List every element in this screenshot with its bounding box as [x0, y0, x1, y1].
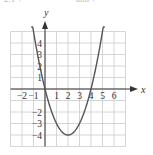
svg-text:−2: −2: [17, 91, 27, 101]
svg-text:2: 2: [66, 91, 71, 101]
svg-text:5: 5: [100, 91, 105, 101]
svg-text:1: 1: [54, 91, 59, 101]
x-axis-label: x: [140, 84, 146, 95]
axes: [11, 21, 139, 147]
svg-text:−2: −2: [32, 108, 42, 118]
y-axis-label: y: [43, 7, 49, 18]
svg-text:6: 6: [112, 91, 117, 101]
svg-text:−3: −3: [32, 119, 42, 129]
parabola-chart: −2−11234564321−2−3−4 x y: [0, 0, 153, 155]
svg-text:−1: −1: [28, 91, 38, 101]
svg-text:4: 4: [37, 39, 42, 49]
svg-text:−4: −4: [32, 131, 42, 141]
svg-text:3: 3: [77, 91, 82, 101]
